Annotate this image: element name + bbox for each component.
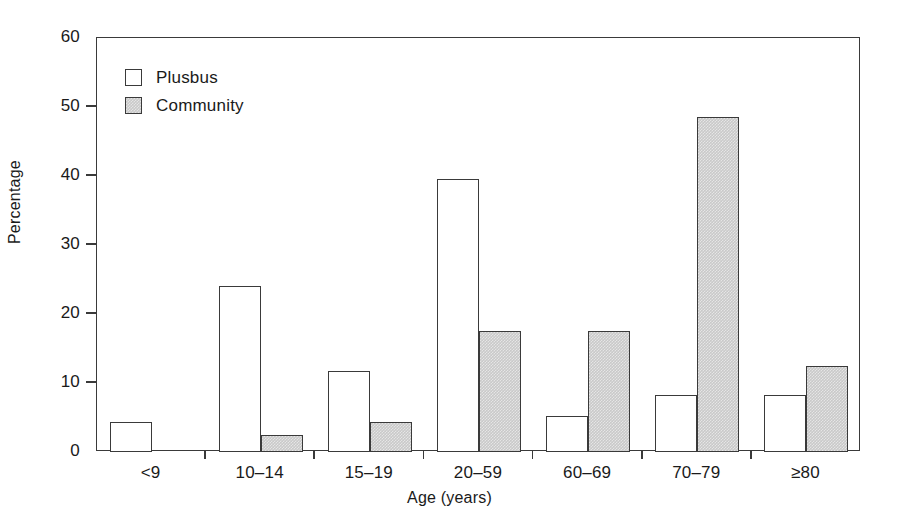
y-axis-tick-label: 50 xyxy=(28,97,80,114)
bar-plusbus-5 xyxy=(655,395,697,452)
x-axis-tick-label: 10–14 xyxy=(205,463,314,483)
x-axis-tick-label: 70–79 xyxy=(642,463,751,483)
y-axis-tick-label: 0 xyxy=(28,442,80,459)
x-axis-tick-label: ≥80 xyxy=(751,463,860,483)
plot-area: Plusbus Community xyxy=(96,37,860,451)
legend-item-plusbus: Plusbus xyxy=(125,65,244,89)
bar-community-3 xyxy=(479,331,521,452)
y-axis-tick xyxy=(86,174,96,176)
x-axis-tick xyxy=(641,451,643,459)
bar-community-1 xyxy=(261,435,303,452)
bar-plusbus-6 xyxy=(764,395,806,452)
bar-plusbus-3 xyxy=(437,179,479,452)
bar-community-2 xyxy=(370,422,412,452)
y-axis-tick-label: 10 xyxy=(28,373,80,390)
y-axis-tick-label: 30 xyxy=(28,235,80,252)
y-axis-tick-label: 20 xyxy=(28,304,80,321)
bar-community-4 xyxy=(588,331,630,452)
bar-plusbus-0 xyxy=(110,422,152,452)
x-axis-tick xyxy=(313,451,315,459)
y-axis-tick xyxy=(86,105,96,107)
y-axis-tick-label: 40 xyxy=(28,166,80,183)
y-axis-tick xyxy=(86,381,96,383)
y-axis-tick xyxy=(86,243,96,245)
x-axis-tick xyxy=(423,451,425,459)
y-axis-tick xyxy=(86,312,96,314)
x-axis-tick xyxy=(532,451,534,459)
y-axis-title: Percentage xyxy=(6,160,24,244)
chart-legend: Plusbus Community xyxy=(125,65,244,121)
bar-community-5 xyxy=(697,117,739,452)
x-axis-tick xyxy=(204,451,206,459)
x-axis-tick-label: 60–69 xyxy=(533,463,642,483)
bar-plusbus-1 xyxy=(219,286,261,452)
x-axis-tick-label: 20–59 xyxy=(423,463,532,483)
legend-label-plusbus: Plusbus xyxy=(156,69,218,86)
bar-plusbus-2 xyxy=(328,371,370,452)
bar-chart-figure: Percentage 0102030405060 Plusbus Communi… xyxy=(0,0,899,524)
legend-label-community: Community xyxy=(156,97,244,114)
legend-swatch-plusbus xyxy=(125,69,142,86)
x-axis-tick-label: <9 xyxy=(96,463,205,483)
legend-swatch-community xyxy=(125,97,142,114)
y-axis-tick-label: 60 xyxy=(28,28,80,45)
bar-plusbus-4 xyxy=(546,416,588,452)
legend-item-community: Community xyxy=(125,93,244,117)
x-axis-tick-label: 15–19 xyxy=(314,463,423,483)
x-axis-tick xyxy=(750,451,752,459)
bar-community-6 xyxy=(806,366,848,452)
x-axis-title: Age (years) xyxy=(0,489,899,507)
